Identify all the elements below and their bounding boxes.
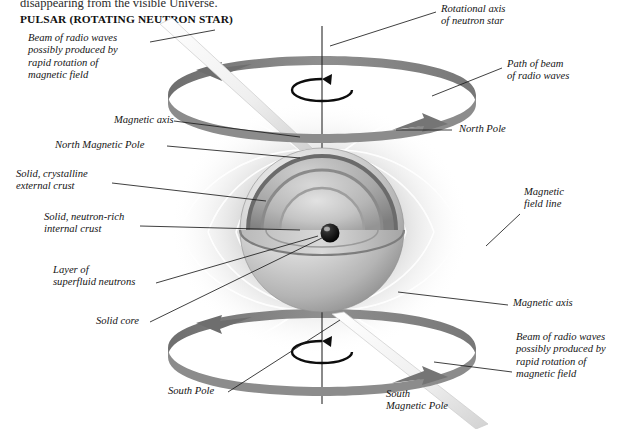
label-solid-core: Solid core — [96, 315, 139, 327]
label-south-pole: South Pole — [168, 385, 214, 397]
label-rotational-axis: Rotational axis of neutron star — [441, 3, 505, 28]
label-magnetic-field-line: Magnetic field line — [524, 186, 564, 211]
label-beam-top: Beam of radio waves possibly produced by… — [28, 32, 118, 82]
label-north-magnetic-pole: North Magnetic Pole — [55, 139, 144, 151]
rotation-arrowhead-north — [322, 74, 332, 85]
solid-core — [321, 224, 340, 243]
neutron-star-body — [240, 148, 404, 312]
label-internal-crust: Solid, neutron-rich internal crust — [44, 211, 124, 236]
label-superfluid-layer: Layer of superfluid neutrons — [53, 264, 135, 289]
diagram-canvas: disappearing from the visible Universe. … — [0, 0, 642, 429]
label-magnetic-axis-top: Magnetic axis — [114, 114, 174, 126]
label-external-crust: Solid, crystalline external crust — [16, 168, 88, 193]
label-south-magnetic-pole: South Magnetic Pole — [386, 388, 448, 413]
label-north-pole: North Pole — [459, 123, 506, 135]
leader-magnetic-field-line — [486, 214, 520, 246]
leader-rotational-axis — [330, 12, 436, 46]
label-beam-bottom: Beam of radio waves possibly produced by… — [516, 331, 606, 381]
label-path-of-beam: Path of beam of radio waves — [507, 58, 569, 83]
label-magnetic-axis-bottom: Magnetic axis — [513, 297, 573, 309]
